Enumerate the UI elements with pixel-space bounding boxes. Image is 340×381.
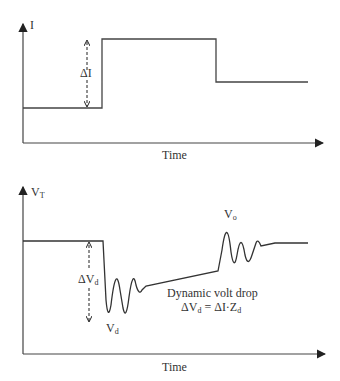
bottom-x-axis-label: Time — [162, 361, 187, 373]
bottom-y-axis-label: VT — [31, 186, 45, 200]
current-waveform — [23, 39, 308, 108]
delta-vd-label: ΔVd — [78, 273, 98, 287]
top-x-axis-label: Time — [162, 149, 187, 161]
voltage-waveform — [23, 232, 308, 313]
diagram-canvas — [0, 0, 340, 381]
vo-label: Vo — [224, 208, 237, 222]
vd-label: Vd — [106, 322, 119, 336]
delta-i-label: ΔI — [80, 67, 92, 79]
top-y-axis-label: I — [30, 19, 34, 31]
top-axes — [23, 24, 323, 143]
annotation-line2: ΔVd = ΔI·Zd — [181, 301, 241, 315]
bottom-axes — [23, 187, 325, 354]
annotation-line1: Dynamic volt drop — [167, 287, 258, 299]
